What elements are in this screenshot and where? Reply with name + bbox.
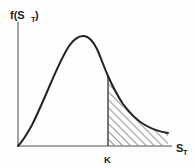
y-axis-label-close: ) <box>35 9 39 21</box>
x-axis-label-subscript: T <box>183 148 188 157</box>
strike-tick-label: K <box>104 154 111 165</box>
density-figure: f(S T ) S T K <box>0 0 195 168</box>
figure-canvas: f(S T ) S T K <box>0 0 195 168</box>
y-axis-label-main: f(S <box>10 9 25 21</box>
